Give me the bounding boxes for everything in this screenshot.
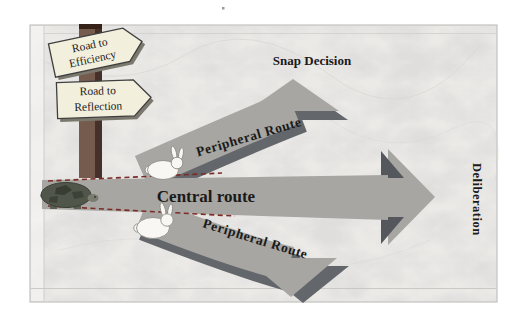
central-route-label: Central route: [157, 187, 256, 206]
bevel-left-strip: [31, 26, 44, 301]
snap-decision-label: Snap Decision: [273, 53, 352, 68]
sign-line2: Reflection: [74, 99, 123, 113]
deliberation-label: Deliberation: [470, 163, 484, 236]
diagram-figure: Road to Efficiency Road to Reflection Sn…: [0, 0, 520, 323]
road-sign-reflection: Road to Reflection: [56, 79, 154, 122]
speck: [222, 7, 225, 10]
pole-cap: [79, 24, 102, 29]
sign-line1: Road to: [79, 84, 116, 97]
routes-diagram-canvas: Road to Efficiency Road to Reflection Sn…: [0, 0, 520, 323]
